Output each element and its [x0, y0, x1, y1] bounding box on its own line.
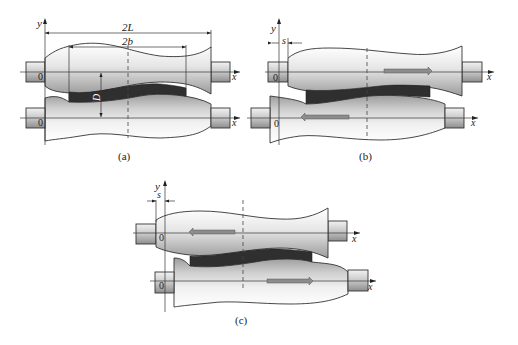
- dim-2b-label: 2b: [122, 35, 134, 47]
- caption-b: (b): [359, 150, 372, 163]
- x-axis-bottom-label: x: [367, 281, 373, 292]
- y-axis-label: y: [36, 17, 42, 29]
- caption-c: (c): [235, 314, 248, 327]
- origin-bottom-label: 0: [159, 280, 164, 291]
- bottom-roll-right-neck: [348, 270, 368, 291]
- origin-bottom-label: 0: [38, 117, 43, 128]
- dim-2L-label: 2L: [122, 21, 134, 33]
- top-roll-left-neck: [136, 224, 156, 244]
- x-axis-top-label: x: [486, 71, 492, 82]
- bottom-roll-body: [270, 95, 445, 143]
- y-axis-label: y: [270, 22, 276, 34]
- x-axis-top-label: x: [351, 233, 357, 244]
- origin-top-label: 0: [273, 72, 278, 83]
- top-roll-right-neck: [328, 221, 347, 241]
- shift-s-label: s: [157, 189, 161, 200]
- panel-a: y 2L 2b D 0 0 x x (a): [20, 17, 240, 163]
- origin-bottom-label: 0: [274, 118, 279, 129]
- roll-diagram: y 2L 2b D 0 0 x x (a) y: [0, 0, 518, 345]
- x-axis-bottom-label: x: [231, 117, 237, 128]
- panel-c: y s 0 0 x x (c): [133, 180, 376, 327]
- x-axis-bottom-label: x: [470, 117, 476, 128]
- shift-s-label: s: [282, 35, 286, 46]
- caption-a: (a): [118, 150, 131, 163]
- x-axis-top-label: x: [231, 71, 237, 82]
- y-axis-arrow-icon: [43, 18, 47, 24]
- gap-D-label: D: [91, 93, 102, 102]
- bottom-roll-left-neck: [155, 272, 174, 293]
- y-axis-arrow-icon: [277, 18, 281, 24]
- origin-top-label: 0: [38, 71, 43, 82]
- y-axis-arrow-icon: [163, 180, 167, 186]
- panel-b: y s 0 0 x x (b): [247, 18, 494, 163]
- origin-top-label: 0: [159, 232, 164, 243]
